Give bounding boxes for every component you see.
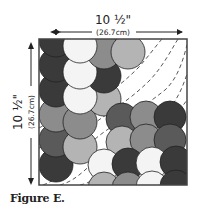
arrow-left-icon bbox=[50, 29, 57, 35]
width-dimension: 10 ½" (26.7cm) bbox=[50, 13, 182, 37]
quilt-block-diagram: 10 ½" (26.7cm) 10 ½" (26.7cm) bbox=[0, 0, 200, 213]
width-label: 10 ½" bbox=[95, 13, 131, 27]
arrow-up-icon bbox=[28, 42, 34, 49]
arrow-down-icon bbox=[28, 178, 34, 185]
quilt-block bbox=[39, 23, 192, 204]
height-metric: (26.7cm) bbox=[27, 95, 36, 129]
height-dimension: 10 ½" (26.7cm) bbox=[11, 42, 36, 185]
height-label: 10 ½" bbox=[11, 94, 25, 130]
figure-caption: Figure E. bbox=[10, 192, 65, 205]
width-metric: (26.7cm) bbox=[96, 28, 130, 37]
